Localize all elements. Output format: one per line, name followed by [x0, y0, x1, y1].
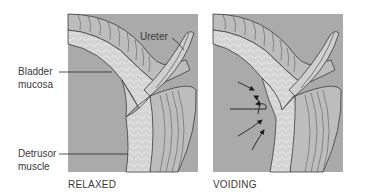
bladder-mucosa-label-2: mucosa — [18, 79, 53, 91]
voiding-panel — [213, 14, 343, 172]
detrusor-label-1: Detrusor — [18, 148, 56, 160]
ureter-label: Ureter — [140, 31, 168, 43]
detrusor-label-2: muscle — [18, 161, 50, 173]
relaxed-panel — [59, 14, 198, 172]
bladder-mucosa-label-1: Bladder — [18, 66, 52, 78]
caption-voiding: VOIDING — [213, 179, 257, 190]
caption-relaxed: RELAXED — [68, 179, 116, 190]
bladder-diagram — [0, 0, 368, 195]
